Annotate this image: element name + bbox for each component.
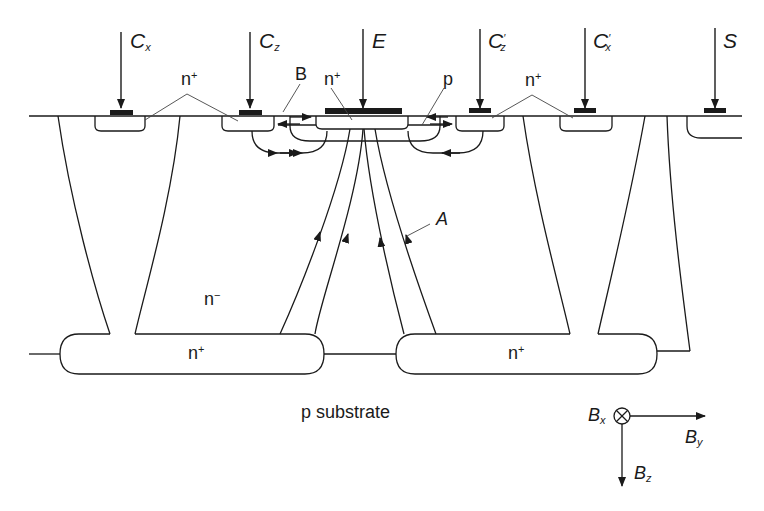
label-bz: Bz: [634, 464, 652, 484]
label-bx: Bx: [588, 406, 606, 426]
n-plus-well-cx: [95, 116, 145, 131]
n-plus-well-cxp: [560, 116, 612, 131]
n-plus-well-s: [687, 116, 742, 138]
terminal-label-cxp: C′x: [593, 30, 611, 53]
label-n-minus: n−: [204, 290, 220, 308]
isolation-wall-mid-b: [598, 116, 645, 334]
label-n-plus-right: n+: [525, 71, 541, 89]
terminal-label-cz: Cz: [259, 30, 280, 53]
label-substrate: p substrate: [301, 403, 390, 421]
terminal-label-cx: Cx: [130, 30, 151, 53]
n-plus-well-cz: [222, 116, 274, 131]
sensor-cross-section: [0, 0, 764, 511]
isolation-wall-mid-a: [523, 116, 570, 334]
n-plus-well-czp: [456, 116, 504, 131]
label-buried-right: n+: [508, 344, 524, 362]
n-plus-emitter: [316, 116, 408, 129]
label-p: p: [443, 70, 453, 88]
terminal-label-s: S: [723, 30, 737, 51]
isolation-wall-left-b: [135, 116, 180, 334]
contact-pads: [110, 108, 726, 115]
label-b: B: [295, 65, 307, 83]
buried-n-plus-right: [396, 334, 657, 374]
terminal-label-e: E: [372, 30, 386, 51]
terminal-label-czp: C′z: [488, 30, 506, 53]
label-buried-left: n+: [188, 344, 204, 362]
label-by: By: [685, 428, 703, 448]
isolation-wall-left-a: [58, 116, 110, 334]
label-n-plus-emitter: n+: [324, 70, 340, 88]
label-n-plus-left: n+: [181, 70, 197, 88]
label-a: A: [436, 210, 448, 228]
isolation-wall-right: [667, 116, 690, 351]
